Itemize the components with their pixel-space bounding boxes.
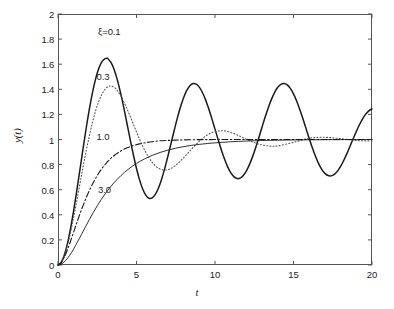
y-tick-label: 0.8 bbox=[24, 159, 54, 170]
x-tick-label: 0 bbox=[55, 269, 60, 280]
y-tick-label: 1.4 bbox=[24, 84, 54, 95]
x-axis-label: t bbox=[0, 287, 394, 298]
x-tick-label: 20 bbox=[367, 269, 378, 280]
curve-label-0: ξ=0.1 bbox=[98, 26, 121, 37]
y-tick-label: 0.4 bbox=[24, 209, 54, 220]
y-tick-label: 1 bbox=[24, 134, 54, 145]
x-tick-label: 15 bbox=[288, 269, 299, 280]
y-tick-label: 0.2 bbox=[24, 234, 54, 245]
figure-step-response: 00.20.40.60.811.21.41.61.82 05101520 t y… bbox=[0, 0, 394, 309]
y-tick-label: 1.2 bbox=[24, 109, 54, 120]
x-axis-tick-labels: 05101520 bbox=[0, 269, 394, 285]
x-tick-label: 10 bbox=[210, 269, 221, 280]
y-axis-tick-labels: 00.20.40.60.811.21.41.61.82 bbox=[18, 0, 54, 309]
curve-label-3: 3.0 bbox=[98, 184, 111, 195]
y-tick-label: 1.6 bbox=[24, 59, 54, 70]
y-tick-label: 1.8 bbox=[24, 34, 54, 45]
x-tick-label: 5 bbox=[134, 269, 139, 280]
y-tick-label: 0.6 bbox=[24, 184, 54, 195]
curve-label-1: 0.3 bbox=[96, 71, 109, 82]
y-axis-label: y(t) bbox=[12, 111, 23, 161]
y-tick-label: 2 bbox=[24, 9, 54, 20]
curve-label-2: 1.0 bbox=[96, 131, 109, 142]
